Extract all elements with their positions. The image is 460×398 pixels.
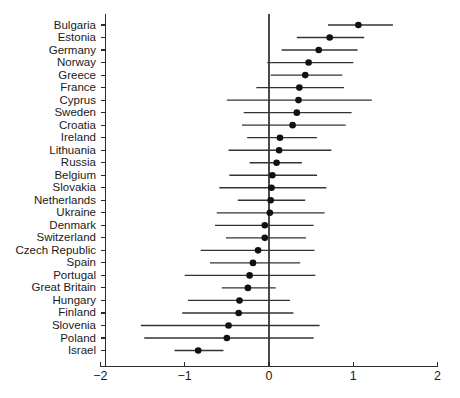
estimate-point	[267, 197, 274, 204]
category-label: Denmark	[49, 219, 96, 231]
category-label: Spain	[67, 256, 96, 268]
category-label: France	[60, 81, 96, 93]
category-label: Israel	[68, 344, 96, 356]
category-label: Ireland	[61, 131, 96, 143]
x-axis-tick-label: 1	[350, 369, 357, 383]
forest-row	[101, 144, 438, 156]
estimate-point	[236, 297, 243, 304]
estimate-point	[294, 109, 301, 116]
category-label: Sweden	[54, 106, 96, 118]
forest-row	[101, 194, 438, 206]
category-label: Netherlands	[34, 194, 96, 206]
forest-plot-figure: BulgariaEstoniaGermanyNorwayGreeceFrance…	[0, 0, 460, 398]
forest-row	[101, 207, 438, 219]
forest-row	[101, 94, 438, 106]
row-hit-area	[101, 32, 438, 44]
forest-row	[101, 82, 438, 94]
estimate-point	[276, 147, 283, 154]
forest-row	[101, 219, 438, 231]
x-axis-tick-label: −2	[93, 369, 107, 383]
category-label: Croatia	[59, 119, 97, 131]
forest-row	[101, 119, 438, 131]
forest-row	[101, 169, 438, 181]
forest-row	[101, 232, 438, 244]
category-label: Slovenia	[52, 319, 97, 331]
category-label: Great Britain	[31, 281, 96, 293]
estimate-point	[246, 272, 253, 279]
category-label: Norway	[57, 56, 96, 68]
forest-row	[101, 132, 438, 144]
estimate-point	[250, 260, 257, 267]
estimate-point	[268, 184, 275, 191]
category-labels: BulgariaEstoniaGermanyNorwayGreeceFrance…	[15, 19, 105, 357]
forest-row	[101, 257, 438, 269]
category-label: Ukraine	[56, 206, 96, 218]
category-label: Lithuania	[49, 144, 96, 156]
estimate-point	[277, 134, 284, 141]
forest-row	[101, 57, 438, 69]
forest-row	[101, 269, 438, 281]
estimate-point	[224, 335, 231, 342]
estimate-point	[225, 322, 232, 329]
forest-row	[101, 44, 438, 56]
forest-row	[101, 307, 438, 319]
forest-row	[101, 182, 438, 194]
row-hit-area	[101, 69, 438, 81]
estimate-point	[261, 235, 268, 242]
category-label: Bulgaria	[54, 19, 97, 31]
estimate-point	[315, 47, 322, 54]
estimate-point	[235, 310, 242, 317]
data-rows	[101, 19, 438, 357]
category-label: Cyprus	[60, 94, 97, 106]
forest-row	[101, 294, 438, 306]
forest-row	[101, 282, 438, 294]
estimate-point	[296, 84, 303, 91]
estimate-point	[326, 34, 333, 41]
category-label: Germany	[49, 44, 97, 56]
x-axis-tick-label: 0	[266, 369, 273, 383]
forest-row	[101, 244, 438, 256]
estimate-point	[355, 22, 362, 29]
estimate-point	[273, 159, 280, 166]
forest-row	[101, 157, 438, 169]
category-label: Russia	[61, 156, 97, 168]
estimate-point	[245, 285, 252, 292]
forest-row	[101, 345, 438, 357]
estimate-point	[195, 347, 202, 354]
category-label: Switzerland	[37, 231, 96, 243]
forest-row	[101, 32, 438, 44]
estimate-point	[289, 122, 296, 129]
estimate-point	[302, 72, 309, 79]
category-label: Estonia	[58, 31, 97, 43]
estimate-point	[267, 210, 274, 217]
estimate-point	[269, 172, 276, 179]
x-axis-tick-label: 2	[434, 369, 441, 383]
category-label: Belgium	[54, 169, 96, 181]
forest-row	[101, 69, 438, 81]
category-label: Greece	[58, 69, 96, 81]
x-axis-tick-label: −1	[178, 369, 192, 383]
estimate-point	[261, 222, 268, 229]
forest-row	[101, 319, 438, 331]
category-label: Poland	[60, 332, 96, 344]
row-hit-area	[101, 44, 438, 56]
estimate-point	[295, 97, 302, 104]
forest-row	[101, 107, 438, 119]
category-label: Czech Republic	[15, 244, 96, 256]
forest-row	[101, 332, 438, 344]
estimate-point	[305, 59, 312, 66]
forest-plot-svg: BulgariaEstoniaGermanyNorwayGreeceFrance…	[0, 0, 460, 398]
category-label: Slovakia	[53, 181, 97, 193]
category-label: Portugal	[53, 269, 96, 281]
category-label: Finland	[58, 306, 96, 318]
row-hit-area	[101, 345, 438, 357]
category-label: Hungary	[53, 294, 97, 306]
forest-row	[101, 19, 438, 31]
estimate-point	[255, 247, 262, 254]
